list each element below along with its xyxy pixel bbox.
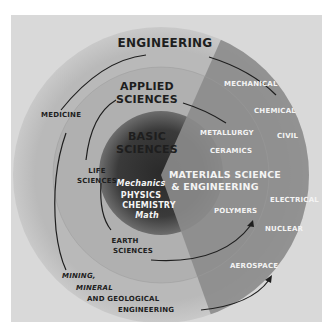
applied-item-earth-line1: EARTH (112, 238, 139, 245)
materials-title-line2: & ENGINEERING (171, 182, 259, 192)
basic-item-mechanics: Mechanics (117, 180, 166, 188)
materials-item-mechanical: MECHANICAL (224, 81, 278, 88)
engineering-item-mining-line2: MINERAL (76, 285, 113, 292)
diagram-panel: ENGINEERING APPLIED SCIENCES BASIC SCIEN… (11, 15, 322, 322)
ring-label-basic-line2: SCIENCES (116, 144, 178, 155)
applied-item-life-line1: LIFE (88, 168, 105, 175)
materials-item-polymers: POLYMERS (214, 208, 257, 215)
basic-item-math: Math (135, 212, 159, 220)
ring-label-applied-line1: APPLIED (120, 81, 174, 92)
ring-label-engineering: ENGINEERING (118, 37, 213, 49)
materials-item-ceramics: CERAMICS (210, 148, 252, 155)
engineering-item-mining-line4: ENGINEERING (118, 307, 174, 314)
engineering-item-medicine: MEDICINE (41, 112, 81, 119)
ring-label-applied-line2: SCIENCES (116, 94, 178, 105)
basic-item-chemistry: CHEMISTRY (122, 202, 176, 210)
applied-item-life-line2: SCIENCES (77, 178, 117, 185)
basic-item-physics: PHYSICS (121, 192, 161, 200)
materials-item-electrical: ELECTRICAL (270, 197, 319, 204)
materials-item-civil: CIVIL (277, 133, 298, 140)
ring-label-basic-line1: BASIC (128, 131, 166, 142)
materials-title-line1: MATERIALS SCIENCE (169, 170, 281, 180)
materials-item-chemical: CHEMICAL (254, 108, 296, 115)
engineering-item-mining-line1: MINING, (62, 273, 96, 280)
materials-item-aerospace: AEROSPACE (230, 263, 278, 270)
applied-item-earth-line2: SCIENCES (113, 248, 153, 255)
materials-item-nuclear: NUCLEAR (265, 226, 303, 233)
materials-item-metallurgy: METALLURGY (200, 130, 254, 137)
engineering-item-mining-line3: AND GEOLOGICAL (87, 296, 159, 303)
